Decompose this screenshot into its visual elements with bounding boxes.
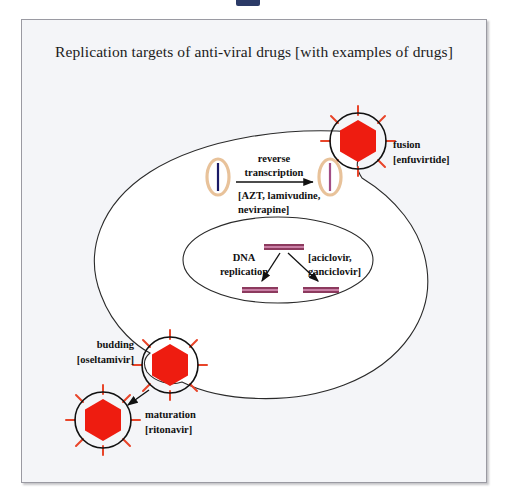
virus-particle-maturation — [66, 385, 140, 455]
fusion-drugs: [enfuvirtide] — [393, 154, 450, 165]
dna-replication-label-line2: replication — [220, 266, 268, 277]
budding-label: budding — [97, 339, 135, 350]
budding-to-maturation-arrow — [128, 390, 149, 405]
budding-drugs: [oseltamivir] — [77, 354, 134, 365]
capsid-oval-dna — [319, 159, 341, 195]
dna-bar-daughter-left — [242, 287, 278, 293]
reverse-transcription-label-line2: transcription — [245, 167, 304, 178]
dna-bar-parent — [264, 244, 304, 250]
label-budding: budding [oseltamivir] — [77, 339, 135, 365]
maturation-drugs: [ritonavir] — [145, 424, 192, 435]
reverse-transcription-drugs-line1: [AZT, lamivudine, — [238, 190, 321, 201]
cropped-header-glyph — [236, 0, 260, 6]
label-maturation: maturation [ritonavir] — [145, 409, 196, 435]
figure-stage: Replication targets of anti-viral drugs … — [0, 0, 513, 504]
reverse-transcription-drugs-line2: nevirapine] — [238, 204, 289, 215]
figure-panel: Replication targets of anti-viral drugs … — [21, 19, 487, 483]
reverse-transcription-label-line1: reverse — [258, 153, 291, 164]
maturation-label: maturation — [145, 409, 196, 420]
virus-capsid-maturation — [85, 399, 121, 441]
label-fusion: fusion [enfuvirtide] — [393, 139, 450, 165]
capsid-oval-rna — [207, 159, 229, 195]
dna-bar-daughter-right — [303, 287, 339, 293]
fusion-label: fusion — [393, 139, 421, 150]
dna-replication-drugs-line2: ganciclovir] — [308, 266, 361, 277]
dna-replication-drugs-line1: [aciclovir, — [308, 252, 352, 263]
dna-replication-label-line1: DNA — [233, 252, 256, 263]
virus-replication-diagram: fusion [enfuvirtide] reverse transcripti… — [22, 20, 488, 484]
